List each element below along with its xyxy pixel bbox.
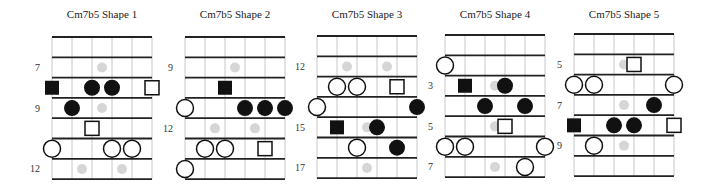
open-note-circle-icon <box>309 99 326 116</box>
open-note-circle-icon <box>177 160 194 177</box>
fret-number-label: 7 <box>557 100 562 111</box>
inlay-dot-icon <box>619 141 629 151</box>
filled-note-circle-icon <box>104 80 120 96</box>
fret-number-label: 12 <box>163 123 173 134</box>
filled-root-square-icon <box>567 118 581 132</box>
filled-root-square-icon <box>45 81 59 95</box>
filled-note-circle-icon <box>477 98 493 114</box>
filled-note-circle-icon <box>389 140 405 156</box>
open-root-square-icon <box>390 80 404 94</box>
chord-diagram-3: Cm7b5 Shape 3121517 <box>295 8 425 178</box>
fret-number-label: 7 <box>35 62 40 73</box>
open-note-circle-icon <box>537 138 554 155</box>
fret-number-label: 9 <box>35 103 40 114</box>
open-note-circle-icon <box>124 140 141 157</box>
inlay-dot-icon <box>117 164 127 174</box>
open-root-square-icon <box>145 81 159 95</box>
filled-note-circle-icon <box>277 100 293 116</box>
filled-note-circle-icon <box>497 78 513 94</box>
filled-note-circle-icon <box>606 117 622 133</box>
open-root-square-icon <box>258 142 272 156</box>
fret-number-label: 15 <box>295 122 305 133</box>
inlay-dot-icon <box>77 164 87 174</box>
chord-diagrams-canvas: Cm7b5 Shape 17912Cm7b5 Shape 2912Cm7b5 S… <box>0 0 714 189</box>
open-note-circle-icon <box>666 76 683 93</box>
open-note-circle-icon <box>44 140 61 157</box>
open-note-circle-icon <box>177 100 194 117</box>
inlay-dot-icon <box>382 61 392 71</box>
open-note-circle-icon <box>586 137 603 154</box>
chord-diagram-4: Cm7b5 Shape 4357 <box>428 8 554 177</box>
chord-diagram-1: Cm7b5 Shape 17912 <box>30 8 159 179</box>
filled-root-square-icon <box>330 120 344 134</box>
inlay-dot-icon <box>362 163 372 173</box>
open-note-circle-icon <box>457 138 474 155</box>
fret-number-label: 12 <box>295 61 305 72</box>
fret-number-label: 3 <box>428 80 433 91</box>
open-note-circle-icon <box>104 140 121 157</box>
fret-number-label: 9 <box>168 62 173 73</box>
fret-number-label: 9 <box>557 140 562 151</box>
inlay-dot-icon <box>490 162 500 172</box>
inlay-dot-icon <box>97 62 107 72</box>
diagram-title: Cm7b5 Shape 5 <box>589 8 660 20</box>
fret-number-label: 5 <box>428 121 433 132</box>
inlay-dot-icon <box>342 61 352 71</box>
filled-note-circle-icon <box>237 100 253 116</box>
inlay-dot-icon <box>619 100 629 110</box>
open-note-circle-icon <box>586 76 603 93</box>
chord-diagram-2: Cm7b5 Shape 2912 <box>163 8 293 179</box>
filled-note-circle-icon <box>517 98 533 114</box>
open-note-circle-icon <box>217 140 234 157</box>
filled-note-circle-icon <box>626 117 642 133</box>
diagram-title: Cm7b5 Shape 1 <box>67 8 137 20</box>
open-note-circle-icon <box>349 139 366 156</box>
filled-note-circle-icon <box>84 80 100 96</box>
open-root-square-icon <box>85 121 99 135</box>
filled-note-circle-icon <box>646 97 662 113</box>
open-note-circle-icon <box>517 158 534 175</box>
open-note-circle-icon <box>566 76 583 93</box>
diagram-title: Cm7b5 Shape 4 <box>460 8 531 20</box>
filled-note-circle-icon <box>409 99 425 115</box>
open-note-circle-icon <box>349 78 366 95</box>
filled-note-circle-icon <box>64 100 80 116</box>
fret-number-label: 12 <box>30 163 40 174</box>
open-note-circle-icon <box>437 57 454 74</box>
fret-number-label: 5 <box>557 59 562 70</box>
inlay-dot-icon <box>250 123 260 133</box>
diagram-title: Cm7b5 Shape 2 <box>200 8 270 20</box>
open-note-circle-icon <box>197 140 214 157</box>
inlay-dot-icon <box>210 123 220 133</box>
fret-number-label: 17 <box>295 162 305 173</box>
filled-root-square-icon <box>218 81 232 95</box>
chord-diagram-5: Cm7b5 Shape 5579 <box>557 8 683 176</box>
filled-note-circle-icon <box>257 100 273 116</box>
diagram-title: Cm7b5 Shape 3 <box>332 8 403 20</box>
filled-note-circle-icon <box>369 119 385 135</box>
open-note-circle-icon <box>437 138 454 155</box>
inlay-dot-icon <box>97 103 107 113</box>
fret-number-label: 7 <box>428 161 433 172</box>
inlay-dot-icon <box>230 62 240 72</box>
filled-root-square-icon <box>458 79 472 93</box>
open-root-square-icon <box>627 57 641 71</box>
open-root-square-icon <box>667 118 681 132</box>
open-note-circle-icon <box>329 78 346 95</box>
open-root-square-icon <box>498 119 512 133</box>
